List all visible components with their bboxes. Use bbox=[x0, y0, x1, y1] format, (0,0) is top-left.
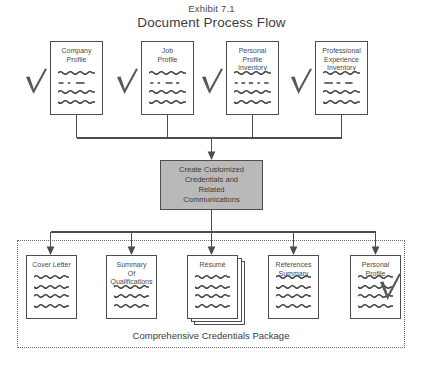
arrowhead-into-process bbox=[208, 152, 216, 161]
output-document-resume[interactable]: Résumé bbox=[187, 255, 238, 319]
document-process-flow-diagram: Exhibit 7.1 Document Process Flow bbox=[0, 0, 423, 372]
process-box-label: Create Customized Credentials and Relate… bbox=[175, 165, 248, 205]
process-box-create-customized-credentials[interactable]: Create Customized Credentials and Relate… bbox=[160, 160, 263, 210]
document-text-lines bbox=[34, 273, 69, 311]
output-document-references-summary[interactable]: References Summary bbox=[268, 255, 319, 319]
diagram-title: Document Process Flow bbox=[0, 16, 423, 31]
check-mark-icon-personal-profile-inventory bbox=[200, 68, 225, 98]
exhibit-label: Exhibit 7.1 bbox=[0, 4, 423, 14]
input-document-job-profile[interactable]: Job Profile bbox=[141, 41, 194, 115]
check-mark-icon-job-profile bbox=[115, 68, 140, 98]
input-document-label: Company Profile bbox=[51, 42, 102, 64]
output-document-label: Résumé bbox=[188, 256, 237, 270]
document-text-lines bbox=[149, 69, 186, 107]
check-mark-icon-personal-profile bbox=[378, 272, 403, 304]
input-document-personal-profile-inventory[interactable]: Personal Profile Inventory bbox=[226, 41, 279, 115]
output-document-cover-letter[interactable]: Cover Letter bbox=[26, 255, 77, 319]
check-mark-icon-company-profile bbox=[24, 68, 49, 98]
document-text-lines bbox=[234, 69, 271, 107]
diagram-header: Exhibit 7.1 Document Process Flow bbox=[0, 4, 423, 31]
output-document-label: Cover Letter bbox=[27, 256, 76, 270]
input-document-company-profile[interactable]: Company Profile bbox=[50, 41, 103, 115]
document-text-lines bbox=[195, 273, 230, 311]
document-text-lines bbox=[58, 69, 95, 107]
output-document-summary-of-qualifications[interactable]: Summary Of Qualifications bbox=[106, 255, 157, 319]
document-text-lines bbox=[276, 273, 311, 311]
group-caption-comprehensive-credentials-package: Comprehensive Credentials Package bbox=[17, 330, 405, 341]
document-text-lines bbox=[323, 69, 360, 107]
document-text-lines bbox=[114, 283, 149, 312]
input-document-professional-experience-inventory[interactable]: Professional Experience Inventory bbox=[315, 41, 368, 115]
input-document-label: Job Profile bbox=[142, 42, 193, 64]
group-caption-label: Comprehensive Credentials Package bbox=[133, 330, 290, 341]
check-mark-icon-professional-experience-inventory bbox=[289, 68, 314, 98]
